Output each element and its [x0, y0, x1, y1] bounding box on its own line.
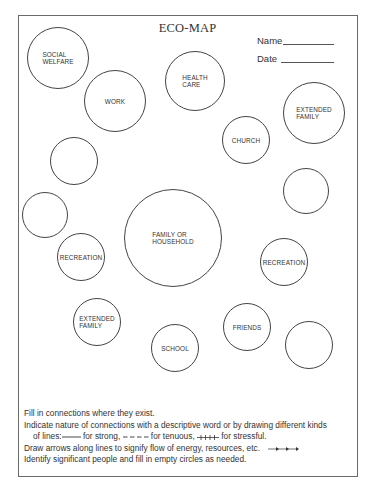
- tenuous-line-icon: [123, 434, 149, 440]
- circle-label: SCHOOL: [161, 345, 189, 352]
- stressful-line-icon: [197, 434, 219, 441]
- name-label: Name: [257, 35, 282, 46]
- tenuous-label: for tenuous,: [149, 431, 197, 441]
- circle-empty-1[interactable]: [50, 137, 98, 185]
- circle-family-or-household[interactable]: FAMILY OR HOUSEHOLD: [124, 189, 222, 287]
- instruction-draw-arrows: Draw arrows along lines to signify flow …: [24, 443, 358, 455]
- strong-label: for strong,: [81, 431, 123, 441]
- circle-extended-family-top[interactable]: EXTENDED FAMILY: [283, 82, 345, 144]
- date-field[interactable]: [281, 62, 334, 63]
- strong-line-icon: [62, 434, 81, 440]
- circle-label: FAMILY OR HOUSEHOLD: [152, 231, 193, 245]
- circle-work[interactable]: WORK: [84, 70, 146, 132]
- instructions: Fill in connections where they exist. In…: [24, 408, 358, 466]
- circle-label: RECREATION: [263, 259, 305, 266]
- circle-recreation-right[interactable]: RECREATION: [260, 238, 308, 286]
- instruction-line-types: of lines: for strong, for tenuous, for s…: [24, 431, 358, 443]
- instruction-indicate-nature: Indicate nature of connections with a de…: [24, 420, 358, 432]
- circle-label: EXTENDED FAMILY: [296, 106, 332, 120]
- circle-empty-2[interactable]: [283, 168, 329, 214]
- arrow-flow-icon: [268, 446, 300, 452]
- instruction-identify-people: Identify significant people and fill in …: [24, 454, 358, 466]
- circle-extended-family-bottom[interactable]: EXTENDED FAMILY: [73, 298, 121, 346]
- circle-church[interactable]: CHURCH: [222, 116, 270, 164]
- circle-label: EXTENDED FAMILY: [79, 315, 115, 329]
- circle-empty-3[interactable]: [22, 192, 68, 238]
- circle-label: FRIENDS: [233, 324, 262, 331]
- circle-label: SOCIAL WELFARE: [42, 51, 73, 65]
- circle-recreation-left[interactable]: RECREATION: [57, 233, 105, 281]
- name-field[interactable]: [283, 44, 334, 45]
- circle-label: WORK: [105, 98, 125, 105]
- circle-label: CHURCH: [232, 137, 260, 144]
- instruction-fill-connections: Fill in connections where they exist.: [24, 408, 358, 420]
- circle-empty-4[interactable]: [285, 321, 333, 369]
- draw-arrows-text: Draw arrows along lines to signify flow …: [24, 443, 260, 453]
- circle-label: RECREATION: [60, 254, 102, 261]
- circle-social-welfare[interactable]: SOCIAL WELFARE: [27, 27, 89, 89]
- circle-health-care[interactable]: HEALTH CARE: [165, 51, 225, 111]
- line-types-prefix: of lines:: [33, 431, 62, 441]
- circle-label: HEALTH CARE: [182, 74, 207, 88]
- circle-friends[interactable]: FRIENDS: [223, 303, 271, 351]
- date-label: Date: [257, 53, 277, 64]
- circle-school[interactable]: SCHOOL: [151, 324, 199, 372]
- stressful-label: for stressful.: [219, 431, 267, 441]
